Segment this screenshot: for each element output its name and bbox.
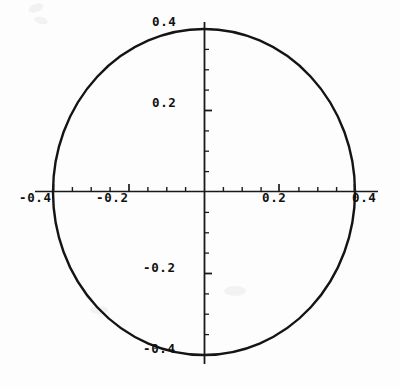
y-axis-tick-label-neg0.4: -0.4 — [143, 343, 176, 356]
circle-plot-graphic — [0, 0, 400, 388]
x-axis-tick-label-neg0.4: -0.4 — [19, 192, 52, 205]
y-axis-tick-label-neg0.2: -0.2 — [143, 262, 176, 275]
y-axis-tick-label-0.4: 0.4 — [152, 16, 176, 29]
y-axis-tick-label-0.2: 0.2 — [152, 97, 176, 110]
plot-canvas: 0.4 0.2 -0.2 -0.4 -0.4 -0.2 0.2 0.4 — [0, 0, 400, 388]
x-axis-tick-label-0.2: 0.2 — [262, 192, 286, 205]
x-axis-tick-label-0.4: 0.4 — [352, 192, 376, 205]
x-axis-tick-label-neg0.2: -0.2 — [96, 192, 129, 205]
